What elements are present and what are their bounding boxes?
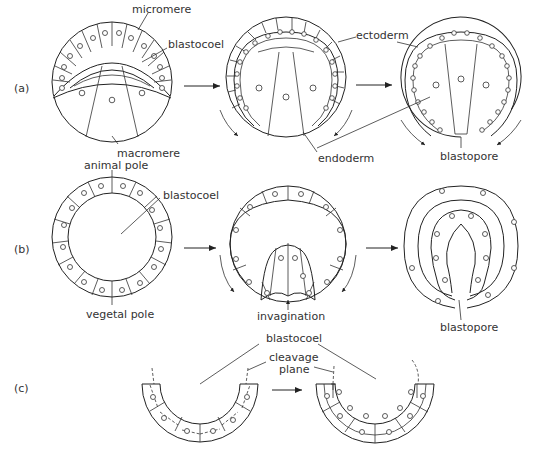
gastrulation-diagram: (a) (b) (c) micromere blastocoel macrome…: [0, 0, 535, 458]
b1-blastula: [52, 170, 172, 305]
a2-early-gastrula: [220, 17, 356, 152]
label-micromere: micromere: [132, 4, 191, 16]
label-blastocoel-b: blastocoel: [163, 190, 219, 202]
a1-blastula: [52, 13, 172, 144]
label-blastopore-a: blastopore: [440, 151, 498, 163]
label-blastocoel-a: blastocoel: [168, 39, 224, 51]
b2-invagination: [220, 186, 356, 310]
label-blastocoel-c: blastocoel: [266, 333, 322, 345]
panel-label-a: (a): [14, 82, 29, 95]
label-animal-pole: animal pole: [84, 160, 148, 172]
label-ectoderm: ectoderm: [356, 30, 409, 42]
c1-before-cleavage: [142, 368, 258, 442]
label-invagination: invagination: [257, 311, 325, 323]
label-endoderm: endoderm: [318, 153, 374, 165]
panel-label-c: (c): [14, 382, 29, 395]
label-plane: plane: [279, 364, 310, 376]
diagram-drawing: [0, 0, 535, 458]
panel-label-b: (b): [14, 243, 30, 256]
b3-blastopore: [404, 186, 518, 320]
label-blastopore-b: blastopore: [440, 322, 498, 334]
a3-late-gastrula: [317, 7, 531, 148]
c2-after-cleavage: [316, 360, 434, 443]
label-vegetal-pole: vegetal pole: [86, 309, 154, 321]
